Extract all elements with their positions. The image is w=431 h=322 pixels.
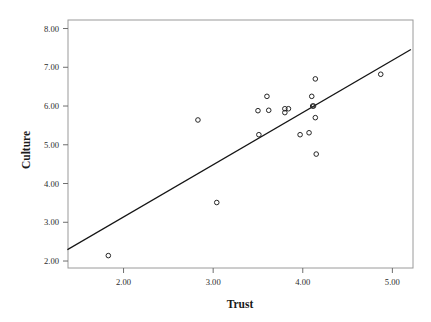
plot-canvas: 2.003.004.005.00 2.003.004.005.006.007.0… (0, 0, 431, 322)
regression-line (68, 50, 410, 250)
data-point (256, 108, 261, 113)
data-point (298, 132, 303, 137)
y-tick-label: 6.00 (44, 101, 59, 111)
y-axis-tick-labels: 2.003.004.005.006.007.008.00 (44, 24, 59, 267)
data-point (313, 115, 318, 120)
data-point (313, 77, 318, 82)
data-point (266, 108, 271, 113)
data-point (378, 72, 383, 77)
x-tick-label: 4.00 (295, 277, 310, 287)
data-point (314, 152, 319, 157)
y-axis-title: Culture (20, 131, 32, 169)
x-tick-label: 5.00 (385, 277, 400, 287)
y-tick-label: 5.00 (44, 140, 59, 150)
y-tick-label: 4.00 (44, 179, 59, 189)
scatter-plot-figure: 2.003.004.005.00 2.003.004.005.006.007.0… (0, 0, 431, 322)
y-axis-ticks (63, 29, 68, 262)
regression-line-segment (68, 50, 410, 250)
x-tick-label: 2.00 (116, 277, 131, 287)
x-tick-label: 3.00 (206, 277, 221, 287)
plot-frame (68, 20, 413, 268)
data-point (196, 118, 201, 123)
data-points (106, 72, 383, 258)
y-tick-label: 8.00 (44, 24, 59, 34)
x-axis-tick-labels: 2.003.004.005.00 (116, 277, 400, 287)
y-tick-label: 7.00 (44, 62, 59, 72)
y-tick-label: 3.00 (44, 217, 59, 227)
data-point (265, 94, 270, 99)
x-axis-title: Trust (227, 298, 254, 310)
data-point (257, 132, 262, 137)
data-point (309, 94, 314, 99)
y-tick-label: 2.00 (44, 256, 59, 266)
x-axis-ticks (124, 268, 393, 273)
data-point (214, 200, 219, 205)
data-point (106, 253, 111, 258)
data-point (307, 130, 312, 135)
